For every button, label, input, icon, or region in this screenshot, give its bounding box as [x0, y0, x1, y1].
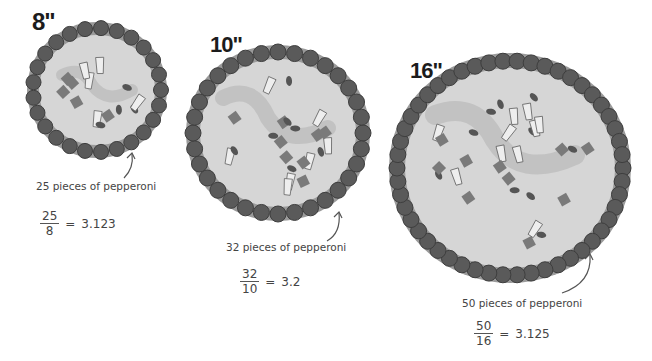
pizza-10-illustration [183, 43, 373, 223]
pizza-8-illustration [22, 20, 172, 160]
equals-sign: = [499, 327, 509, 341]
pizza-16-caption: 50 pieces of pepperoni [462, 297, 582, 309]
numerator: 25 [40, 210, 59, 224]
denominator: 10 [242, 282, 257, 296]
denominator: 16 [476, 334, 491, 348]
pizza-16-arrow [560, 250, 600, 295]
ratio-result: 3.2 [281, 275, 300, 289]
fraction: 32 10 [240, 268, 259, 296]
pizza-16-formula: 50 16 = 3.125 [474, 320, 550, 348]
equals-sign: = [65, 217, 75, 231]
numerator: 32 [240, 268, 259, 282]
pizza-10-caption: 32 pieces of pepperoni [226, 241, 346, 253]
ratio-result: 3.123 [81, 217, 115, 231]
ratio-result: 3.125 [515, 327, 549, 341]
fraction: 25 8 [40, 210, 59, 238]
pizza-10-arrow [325, 208, 355, 243]
pizza-8-formula: 25 8 = 3.123 [40, 210, 116, 238]
pizza-8-arrow [120, 150, 150, 180]
fraction: 50 16 [474, 320, 493, 348]
equals-sign: = [265, 275, 275, 289]
numerator: 50 [474, 320, 493, 334]
denominator: 8 [46, 224, 54, 238]
pizza-8-caption: 25 pieces of pepperoni [36, 180, 156, 192]
pizza-10-formula: 32 10 = 3.2 [240, 268, 300, 296]
